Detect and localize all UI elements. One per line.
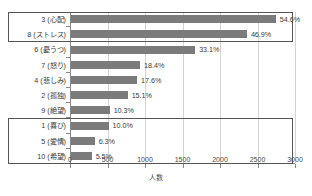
bar-value-label: 15.1% (129, 88, 152, 103)
category-label: 5 (愛情) (4, 134, 66, 149)
bar (71, 137, 95, 145)
category-label: 1 (喜び) (4, 118, 66, 133)
category-label: 7 (怒り) (4, 58, 66, 73)
bar-row: 2 (孤独)15.1% (70, 88, 295, 103)
bar-row: 4 (悲しみ)17.6% (70, 73, 295, 88)
category-label: 4 (悲しみ) (4, 73, 66, 88)
bar (71, 30, 247, 38)
bar (71, 122, 109, 130)
bar-value-label: 10.3% (111, 103, 134, 118)
bar-chart: 3 (心配)54.6%8 (ストレス)46.9%6 (憂うつ)33.1%7 (怒… (0, 0, 312, 196)
x-tick (70, 164, 71, 168)
category-label: 3 (心配) (4, 12, 66, 27)
category-label: 9 (絶望) (4, 103, 66, 118)
bar-row: 3 (心配)54.6% (70, 12, 295, 27)
x-tick-label: 1000 (137, 156, 153, 163)
bar (71, 91, 128, 99)
x-tick-label: 2500 (250, 156, 266, 163)
bar-value-label: 33.1% (196, 42, 219, 57)
bar-row: 5 (愛情)6.3% (70, 134, 295, 149)
x-tick (183, 164, 184, 168)
bar-value-label: 17.6% (138, 73, 161, 88)
bar (71, 46, 195, 54)
bar-value-label: 6.3% (96, 134, 115, 149)
bar-row: 7 (怒り)18.4% (70, 58, 295, 73)
gridline (295, 12, 296, 164)
bar (71, 61, 140, 69)
bar (71, 15, 276, 23)
bar (71, 152, 92, 160)
x-tick-label: 1500 (175, 156, 191, 163)
bar-row: 6 (憂うつ)33.1% (70, 42, 295, 57)
bar-value-label: 10.0% (110, 118, 133, 133)
plot-area: 3 (心配)54.6%8 (ストレス)46.9%6 (憂うつ)33.1%7 (怒… (70, 12, 295, 164)
x-tick (258, 164, 259, 168)
bar-row: 1 (喜び)10.0% (70, 118, 295, 133)
bar-row: 9 (絶望)10.3% (70, 103, 295, 118)
bar-value-label: 18.4% (141, 58, 164, 73)
x-axis-title: 人数 (0, 172, 312, 182)
category-label: 8 (ストレス) (4, 27, 66, 42)
x-tick-label: 2000 (212, 156, 228, 163)
x-tick (295, 164, 296, 168)
category-label: 10 (希望) (4, 149, 66, 164)
category-label: 6 (憂うつ) (4, 42, 66, 57)
x-tick-label: 500 (102, 156, 114, 163)
x-tick (220, 164, 221, 168)
bar (71, 76, 137, 84)
bar-value-label: 46.9% (248, 27, 271, 42)
x-tick (145, 164, 146, 168)
bar-value-label: 54.6% (277, 12, 300, 27)
x-tick-label: 0 (68, 156, 72, 163)
category-label: 2 (孤独) (4, 88, 66, 103)
bar-row: 8 (ストレス)46.9% (70, 27, 295, 42)
x-tick-label: 3000 (287, 156, 303, 163)
x-tick (108, 164, 109, 168)
y-tick (66, 163, 70, 164)
bar (71, 106, 110, 114)
